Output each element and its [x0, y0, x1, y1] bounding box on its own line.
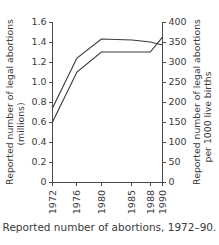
- y-axis-right-tick-label: 200: [169, 96, 187, 107]
- y-axis-left-tick-label: 0: [40, 176, 46, 187]
- x-axis-tick-label: 1988: [145, 190, 156, 214]
- y-axis-left-tick-label: 1.6: [31, 16, 46, 27]
- y-axis-right-tick-label: 150: [169, 116, 187, 127]
- series-line-2: [53, 37, 163, 122]
- series-lines: [53, 37, 163, 122]
- y-axis-right-tick-label: 50: [169, 156, 181, 167]
- y-axis-left-tick-label: 0.8: [31, 96, 46, 107]
- x-axis-tick-label: 1976: [71, 190, 82, 214]
- y-axis-left-title-line1: Reported number of legal abortions: [4, 19, 15, 185]
- y-axis-right-ticks: [163, 23, 167, 183]
- y-axis-right-tick-label: 100: [169, 136, 187, 147]
- y-axis-right-title-line1: Reported number of legal abortions: [191, 19, 202, 185]
- line-chart: 00.20.40.60.81.01.21.41.6 05010015020025…: [0, 0, 219, 219]
- y-axis-left-title-line2: (millions): [15, 102, 26, 145]
- y-axis-right-tick-label: 350: [169, 36, 187, 47]
- x-axis-tick-label: 1980: [96, 190, 107, 214]
- chart-figure: 00.20.40.60.81.01.21.41.6 05010015020025…: [0, 0, 219, 245]
- y-axis-left-tick-label: 0.6: [31, 116, 46, 127]
- y-axis-right-tick-label: 0: [169, 176, 175, 187]
- y-axis-right-tick-label: 400: [169, 16, 187, 27]
- y-axis-right-title-line2: per 1000 live births: [202, 71, 213, 162]
- y-axis-right-tick-label: 250: [169, 76, 187, 87]
- figure-caption: Reported number of abortions, 1972–90.: [0, 221, 219, 233]
- x-axis-tick-label: 1972: [47, 190, 58, 214]
- y-axis-left-ticks: [49, 23, 53, 183]
- y-axis-right-tick-label: 300: [169, 56, 187, 67]
- series-line-1: [53, 39, 163, 108]
- y-axis-left-tick-label: 1.0: [31, 76, 46, 87]
- y-axis-left-tick-label: 0.2: [31, 156, 46, 167]
- y-axis-left-tick-labels: 00.20.40.60.81.01.21.41.6: [31, 16, 46, 187]
- y-axis-left-tick-label: 1.2: [31, 56, 46, 67]
- x-axis-tick-label: 1985: [126, 190, 137, 214]
- x-axis-tick-labels: 197219761980198519881990: [47, 190, 168, 214]
- x-axis-tick-label: 1990: [157, 190, 168, 214]
- y-axis-left-tick-label: 1.4: [31, 36, 46, 47]
- y-axis-right-tick-labels: 050100150200250300350400: [169, 16, 187, 187]
- y-axis-left-tick-label: 0.4: [31, 136, 46, 147]
